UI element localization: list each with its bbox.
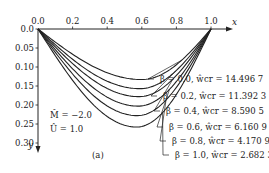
x-axis-arrow-icon bbox=[226, 27, 233, 32]
x-tick-label: 0.6 bbox=[135, 16, 149, 26]
legend-entry: β = 1.0, ŵcr = 2.682 3 bbox=[175, 150, 269, 160]
y-tick-label: 0.0 bbox=[20, 24, 34, 34]
y-tick-label: 0.20 bbox=[15, 100, 34, 110]
legend-entry: β = 0.6, ŵcr = 6.160 9 bbox=[169, 122, 267, 132]
line-chart: 0.00.20.40.60.81.00.00.050.100.150.200.2… bbox=[0, 0, 269, 173]
y-tick-label: 0.15 bbox=[15, 81, 34, 91]
y-axis-arrow-icon bbox=[36, 146, 41, 153]
y-tick-label: 0.05 bbox=[15, 43, 34, 53]
y-tick-label: 0.25 bbox=[15, 119, 34, 129]
annotation-u-hat: Û = 1.0 bbox=[50, 123, 83, 134]
curve-beta-0.8 bbox=[38, 29, 211, 116]
curve-beta-0 bbox=[38, 29, 211, 80]
x-tick-label: 0.2 bbox=[66, 16, 80, 26]
x-tick-label: 1.0 bbox=[204, 16, 218, 26]
legend-entry: β = 0.8, ŵcr = 4.170 9 bbox=[172, 136, 269, 146]
x-tick-label: 0.8 bbox=[170, 16, 184, 26]
x-tick-label: 0.4 bbox=[100, 16, 114, 26]
annotation-m-hat: M̂ = −2.0 bbox=[50, 109, 92, 120]
legend-entry: β = 0.0, ŵcr = 14.496 7 bbox=[160, 74, 263, 84]
legend-entry: β = 0.2, ŵcr = 11.392 3 bbox=[163, 91, 266, 101]
y-axis-label: y bbox=[27, 140, 34, 150]
x-axis-label: x bbox=[232, 17, 237, 27]
figure-caption: (a) bbox=[92, 150, 104, 160]
legend-entry: β = 0.4, ŵcr = 8.590 5 bbox=[166, 106, 264, 116]
y-tick-label: 0.10 bbox=[15, 62, 34, 72]
